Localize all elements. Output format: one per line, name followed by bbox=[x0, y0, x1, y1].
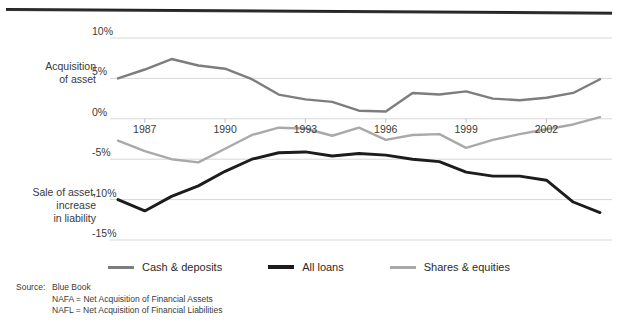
y-tick-neg15pct: -15% bbox=[92, 227, 117, 239]
x-tick-1993: 1993 bbox=[285, 123, 325, 135]
chart-legend: Cash & depositsAll loansShares & equitie… bbox=[0, 255, 618, 279]
y-tick-neg10pct: -10% bbox=[92, 187, 117, 199]
y-tick-5pct: 5% bbox=[92, 65, 107, 77]
source-value: Blue Book bbox=[52, 282, 222, 294]
series-line-0 bbox=[118, 59, 600, 112]
y-tick-neg5pct: -5% bbox=[92, 146, 111, 158]
x-tick-1996: 1996 bbox=[366, 123, 406, 135]
chart-plot-area: Acquisition of asset Sale of asset, incr… bbox=[0, 0, 618, 262]
legend-item-1[interactable]: All loans bbox=[268, 261, 344, 273]
legend-item-0[interactable]: Cash & deposits bbox=[108, 261, 222, 273]
annotation-acquisition-of-asset: Acquisition of asset bbox=[18, 60, 96, 86]
source-note: Source: Blue Book NAFA = Net Acquisition… bbox=[16, 282, 222, 317]
legend-label: All loans bbox=[302, 261, 344, 273]
legend-swatch-icon bbox=[390, 266, 416, 269]
source-note-nafa: NAFA = Net Acquisition of Financial Asse… bbox=[52, 294, 222, 306]
source-note-nafl: NAFL = Net Acquisition of Financial Liab… bbox=[52, 305, 222, 317]
source-label: Source: bbox=[16, 282, 52, 294]
legend-swatch-icon bbox=[108, 266, 134, 269]
x-tick-2002: 2002 bbox=[526, 123, 566, 135]
annotation-sale-of-asset: Sale of asset, increase in liability bbox=[10, 186, 96, 225]
x-tick-1999: 1999 bbox=[446, 123, 486, 135]
y-tick-0pct: 0% bbox=[92, 106, 107, 118]
y-tick-10pct: 10% bbox=[92, 25, 113, 37]
legend-label: Cash & deposits bbox=[142, 261, 222, 273]
legend-swatch-icon bbox=[268, 265, 294, 269]
legend-item-2[interactable]: Shares & equities bbox=[390, 261, 510, 273]
x-tick-1987: 1987 bbox=[125, 123, 165, 135]
x-tick-1990: 1990 bbox=[205, 123, 245, 135]
legend-label: Shares & equities bbox=[424, 261, 510, 273]
